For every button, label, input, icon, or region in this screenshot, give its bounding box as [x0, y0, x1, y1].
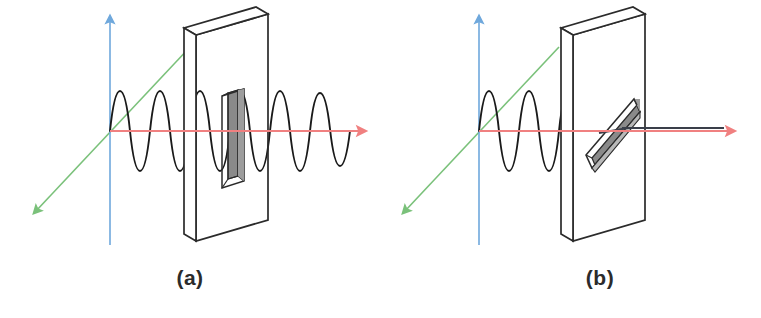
panel-b-depth-axis	[405, 47, 559, 211]
panel-b-plate-side-face	[561, 28, 573, 241]
panel-b-caption: (b)	[560, 266, 640, 290]
polarization-figure: (a) (b)	[0, 0, 761, 318]
panel-a-slit-shadow	[238, 89, 244, 181]
panel-b-slit-inner-face	[592, 105, 640, 165]
panel-a-caption: (a)	[150, 266, 230, 290]
figure-canvas	[0, 0, 761, 318]
panel-a-plate-side-face	[184, 28, 196, 241]
panel-a	[36, 7, 362, 245]
panel-b	[405, 7, 731, 245]
panel-b-plate-top-face	[561, 7, 645, 35]
panel-a-slit-inner-face	[228, 90, 238, 179]
panel-a-depth-axis	[36, 47, 190, 211]
